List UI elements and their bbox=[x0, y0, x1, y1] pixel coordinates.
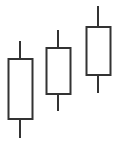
candle-2 bbox=[47, 30, 71, 111]
candlestick-diagram bbox=[0, 0, 132, 145]
candle-body bbox=[87, 27, 111, 75]
candle-body bbox=[9, 59, 33, 119]
candle-3 bbox=[87, 6, 111, 93]
candle-1 bbox=[9, 41, 33, 138]
candlestick-canvas bbox=[0, 0, 132, 145]
candle-body bbox=[47, 48, 71, 94]
